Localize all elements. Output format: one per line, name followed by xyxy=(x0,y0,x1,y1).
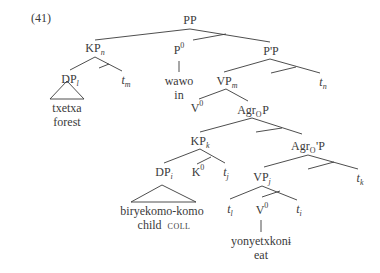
node-superscript: 0 xyxy=(180,41,184,50)
node-index: j xyxy=(227,172,229,181)
leaf-yonyetxkoni-word: yonyetxkonɨ xyxy=(231,235,291,248)
node-index: k xyxy=(206,141,210,150)
leaf-txetxa-gloss: forest xyxy=(53,116,80,129)
node-label: Agr xyxy=(291,139,310,153)
node-superscript: 0 xyxy=(199,99,203,108)
example-number: (41) xyxy=(31,12,51,25)
node-label: K xyxy=(192,165,201,179)
node-label: PP xyxy=(183,13,196,27)
node-label: P xyxy=(174,43,181,57)
leaf-txetxa-word: txetxa xyxy=(52,102,81,115)
node-agro-bar-p: AgrO'P xyxy=(291,140,325,153)
leaf-wawo-word: wawo xyxy=(165,75,194,88)
node-index: n xyxy=(323,82,327,91)
node-dp-i: DPi xyxy=(155,166,173,179)
node-index: m xyxy=(232,81,238,90)
trace-t-m: tm xyxy=(121,74,130,87)
syntax-tree-diagram: (41) PP KPn P0 P'P DPl tm wawo in VPm tn… xyxy=(0,0,380,273)
leaf-biryekomo-gloss: child COLL xyxy=(138,219,191,233)
node-label-tail: 'P xyxy=(316,139,325,153)
node-v0-lower: V0 xyxy=(256,204,269,217)
leaf-biryekomo-word: biryekomo-komo xyxy=(120,205,203,218)
node-superscript: 0 xyxy=(200,163,204,172)
trace-t-n: tn xyxy=(319,76,326,89)
node-agro-p: AgrOP xyxy=(237,104,269,117)
node-index: i xyxy=(300,209,302,218)
node-index: l xyxy=(77,79,79,88)
node-vp-j: VPj xyxy=(253,171,271,184)
node-pp: PP xyxy=(183,14,196,27)
node-p-bar-p: P'P xyxy=(263,45,279,58)
leaf-yonyetxkoni-gloss: eat xyxy=(254,249,268,262)
node-vp-m: VPm xyxy=(216,75,237,88)
node-label: V xyxy=(191,101,200,115)
leaf-wawo-gloss: in xyxy=(174,89,183,102)
node-label-tail: P xyxy=(262,103,269,117)
node-p0: P0 xyxy=(174,44,185,57)
node-label: V xyxy=(256,203,265,217)
node-index: n xyxy=(101,48,105,57)
node-label: DP xyxy=(61,72,76,86)
trace-t-i: ti xyxy=(296,203,302,216)
node-label: KP xyxy=(85,41,100,55)
node-index: j xyxy=(269,177,271,186)
node-kp-n: KPn xyxy=(85,42,104,55)
trace-t-j: tj xyxy=(223,166,229,179)
node-index: k xyxy=(360,178,364,187)
node-superscript: 0 xyxy=(264,201,268,210)
gloss-text: child xyxy=(138,218,162,232)
node-label: Agr xyxy=(237,103,256,117)
node-label: P'P xyxy=(263,44,279,58)
node-k0: K0 xyxy=(192,166,205,179)
node-index: m xyxy=(125,80,131,89)
node-v0-upper: V0 xyxy=(191,102,204,115)
node-index: i xyxy=(171,172,173,181)
gloss-tag: COLL xyxy=(168,222,191,231)
node-kp-k: KPk xyxy=(191,135,210,148)
trace-t-k: tk xyxy=(357,172,364,185)
node-label: VP xyxy=(216,74,231,88)
node-label: VP xyxy=(253,170,268,184)
node-dp-l: DPl xyxy=(61,73,79,86)
node-label: DP xyxy=(155,165,170,179)
node-index: l xyxy=(231,209,233,218)
trace-t-l: tl xyxy=(227,203,233,216)
node-label: KP xyxy=(191,134,206,148)
